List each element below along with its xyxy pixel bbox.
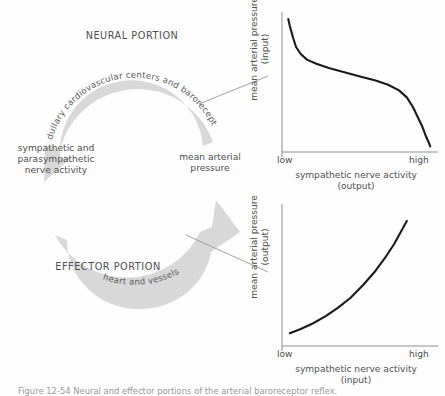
top-arc-text: medullary cardiovascular centers and bar… — [0, 0, 220, 141]
x-tick-label-low: low — [277, 349, 293, 359]
neural-portion-chart-graphics — [246, 2, 445, 198]
x-tick-label-high: high — [409, 349, 429, 359]
effector-portion-arrow — [55, 200, 240, 309]
baroreceptor-reflex-figure: medullary cardiovascular centers and bar… — [0, 0, 445, 396]
x-tick-label-high: high — [409, 155, 429, 165]
effector-portion-label: EFFECTOR PORTION — [28, 261, 188, 273]
x-tick-label-low: low — [277, 155, 293, 165]
neural-portion-chart: mean arterial pressure (input) low high … — [246, 2, 445, 198]
x-axis-label: sympathetic nerve activity (input) — [270, 364, 442, 387]
y-axis-label: mean arterial pressure (output) — [249, 187, 271, 307]
data-curve — [288, 19, 430, 146]
nerve-activity-node-label: sympathetic and parasympathetic nerve ac… — [2, 143, 110, 176]
neural-portion-label: NEURAL PORTION — [52, 30, 212, 42]
data-curve — [290, 221, 407, 333]
effector-portion-chart: mean arterial pressure (output) low high… — [246, 196, 445, 396]
figure-caption: Figure 12-54 Neural and effector portion… — [18, 386, 438, 396]
reflex-cycle-diagram: medullary cardiovascular centers and bar… — [0, 0, 268, 396]
y-axis-label: mean arterial pressure (input) — [249, 0, 271, 109]
x-axis-label: sympathetic nerve activity (output) — [270, 170, 442, 193]
diagram-graphics: medullary cardiovascular centers and bar… — [0, 0, 268, 396]
